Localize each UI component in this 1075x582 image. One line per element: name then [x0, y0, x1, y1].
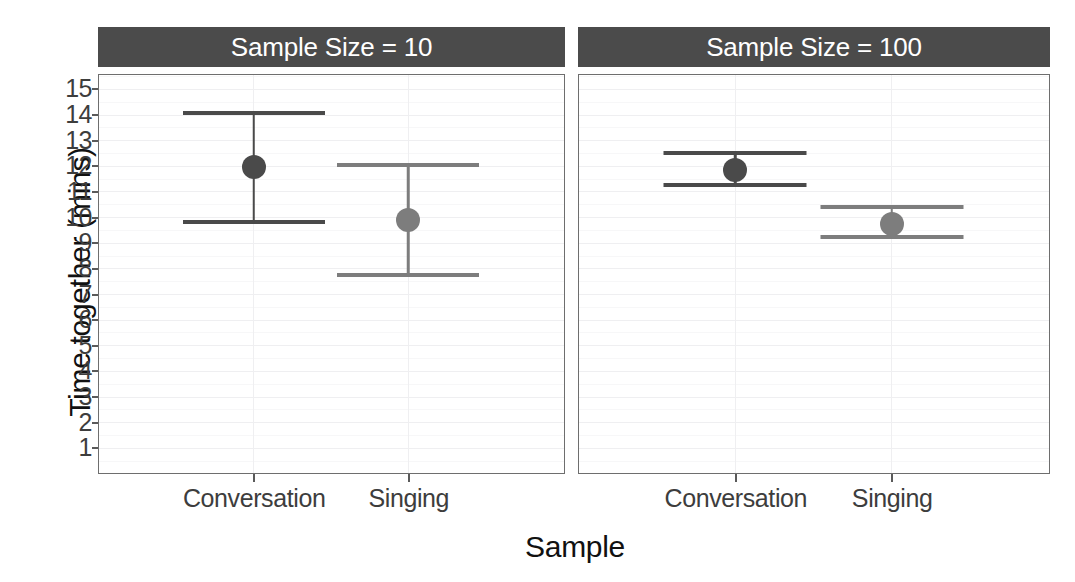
x-axis-tick-mark: [408, 474, 410, 482]
x-axis-tick-label-singing: Singing: [369, 484, 450, 513]
gridline-horizontal-minor: [579, 256, 1049, 257]
facet-strip-label: Sample Size = 10: [231, 32, 432, 63]
y-axis-tick-label: 4: [46, 358, 92, 383]
gridline-horizontal-major: [579, 268, 1049, 269]
y-axis-tick-labels: 123456789101112131415: [40, 0, 92, 582]
gridline-vertical-major: [735, 75, 736, 473]
x-axis-title: Sample: [95, 530, 1055, 564]
gridline-horizontal-minor: [99, 358, 564, 359]
gridline-horizontal-minor: [579, 461, 1049, 462]
gridline-horizontal-minor: [579, 358, 1049, 359]
gridline-horizontal-minor: [99, 230, 564, 231]
gridline-horizontal-minor: [579, 76, 1049, 77]
gridline-horizontal-major: [99, 371, 564, 372]
y-axis-tick-label: 15: [46, 76, 92, 101]
gridline-horizontal-minor: [99, 204, 564, 205]
y-axis-tick-label: 12: [46, 153, 92, 178]
gridline-horizontal-minor: [99, 332, 564, 333]
y-axis-tick-label: 8: [46, 256, 92, 281]
x-axis-tick-mark: [891, 474, 893, 482]
x-axis-tick-label-conversation: Conversation: [183, 484, 326, 513]
gridline-horizontal-major: [99, 294, 564, 295]
facet-strip-label: Sample Size = 100: [706, 32, 922, 63]
x-axis-tick-mark: [253, 474, 255, 482]
gridline-horizontal-major: [579, 345, 1049, 346]
y-axis-tick-label: 14: [46, 102, 92, 127]
y-axis-tick-label: 9: [46, 230, 92, 255]
x-axis-tick-mark: [735, 474, 737, 482]
y-axis-tick-label: 13: [46, 128, 92, 153]
facet-strip-sample-size-100: Sample Size = 100: [578, 27, 1050, 67]
y-axis-tick-label: 11: [46, 179, 92, 204]
gridline-horizontal-minor: [99, 179, 564, 180]
facet-panel-sample-size-100: [578, 74, 1050, 474]
gridline-horizontal-minor: [99, 127, 564, 128]
x-axis-tick-label-conversation: Conversation: [665, 484, 808, 513]
gridline-horizontal-major: [579, 371, 1049, 372]
gridline-horizontal-major: [99, 140, 564, 141]
gridline-horizontal-major: [579, 166, 1049, 167]
gridline-horizontal-minor: [579, 179, 1049, 180]
y-axis-tick-label: 10: [46, 205, 92, 230]
gridline-horizontal-major: [99, 448, 564, 449]
gridline-horizontal-major: [579, 448, 1049, 449]
gridline-vertical-major: [891, 75, 892, 473]
mean-point-singing: [880, 212, 904, 236]
gridline-horizontal-major: [579, 89, 1049, 90]
gridline-horizontal-major: [579, 191, 1049, 192]
gridline-horizontal-major: [579, 294, 1049, 295]
gridline-horizontal-minor: [99, 102, 564, 103]
gridline-horizontal-minor: [579, 102, 1049, 103]
gridline-horizontal-major: [99, 345, 564, 346]
y-axis-tick-label: 2: [46, 410, 92, 435]
gridline-horizontal-major: [99, 320, 564, 321]
gridline-horizontal-minor: [579, 153, 1049, 154]
y-axis-tick-label: 3: [46, 384, 92, 409]
gridline-horizontal-major: [99, 217, 564, 218]
facet-strip-sample-size-10: Sample Size = 10: [98, 27, 565, 67]
y-axis-tick-label: 7: [46, 282, 92, 307]
gridline-horizontal-minor: [99, 256, 564, 257]
gridline-horizontal-minor: [99, 461, 564, 462]
gridline-horizontal-major: [579, 115, 1049, 116]
gridline-horizontal-major: [99, 422, 564, 423]
gridline-horizontal-minor: [99, 281, 564, 282]
gridline-horizontal-minor: [579, 281, 1049, 282]
gridline-horizontal-major: [99, 89, 564, 90]
gridline-horizontal-major: [579, 217, 1049, 218]
facet-panel-sample-size-10: [98, 74, 565, 474]
gridline-horizontal-minor: [99, 76, 564, 77]
gridline-horizontal-major: [99, 268, 564, 269]
mean-point-singing: [396, 208, 420, 232]
mean-point-conversation: [723, 158, 747, 182]
mean-point-conversation: [242, 155, 266, 179]
gridline-horizontal-minor: [579, 204, 1049, 205]
gridline-horizontal-minor: [579, 384, 1049, 385]
gridline-horizontal-minor: [99, 384, 564, 385]
y-axis-tick-label: 6: [46, 307, 92, 332]
y-axis-tick-label: 5: [46, 333, 92, 358]
gridline-horizontal-major: [579, 140, 1049, 141]
gridline-horizontal-major: [579, 243, 1049, 244]
x-axis-tick-label-singing: Singing: [852, 484, 933, 513]
gridline-horizontal-minor: [579, 307, 1049, 308]
gridline-horizontal-minor: [579, 435, 1049, 436]
gridline-horizontal-major: [579, 422, 1049, 423]
error-bar-figure: Time together (mins) 1234567891011121314…: [0, 0, 1075, 582]
gridline-horizontal-minor: [99, 435, 564, 436]
gridline-horizontal-minor: [99, 409, 564, 410]
gridline-horizontal-major: [99, 191, 564, 192]
gridline-horizontal-major: [99, 243, 564, 244]
gridline-horizontal-minor: [99, 153, 564, 154]
y-axis-tick-label: 1: [46, 435, 92, 460]
gridline-horizontal-major: [99, 397, 564, 398]
gridline-horizontal-major: [99, 166, 564, 167]
gridline-horizontal-minor: [579, 230, 1049, 231]
gridline-horizontal-major: [579, 397, 1049, 398]
gridline-horizontal-major: [579, 320, 1049, 321]
gridline-horizontal-minor: [579, 332, 1049, 333]
gridline-horizontal-minor: [99, 307, 564, 308]
gridline-horizontal-minor: [579, 127, 1049, 128]
gridline-horizontal-major: [99, 115, 564, 116]
gridline-horizontal-minor: [579, 409, 1049, 410]
